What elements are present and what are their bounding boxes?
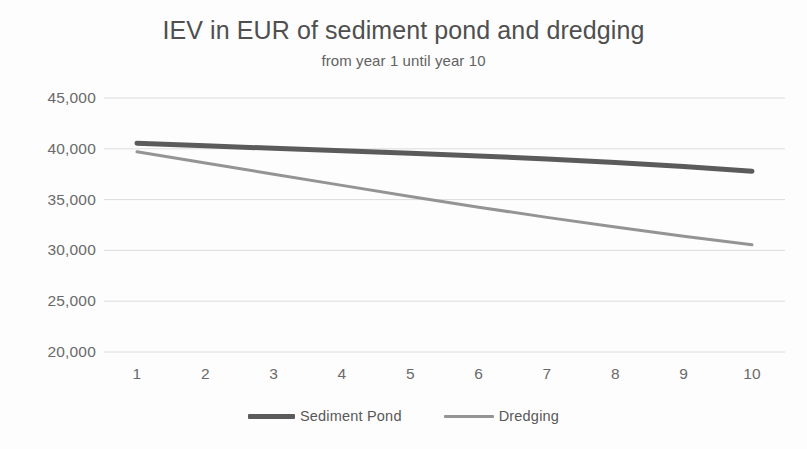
y-tick-label-25000: 25,000	[24, 292, 96, 310]
y-tick-label-30000: 30,000	[24, 241, 96, 259]
legend-item-sediment-pond[interactable]: Sediment Pond	[248, 408, 402, 424]
chart-container: IEV in EUR of sediment pond and dredging…	[0, 0, 807, 449]
legend-label: Dredging	[499, 408, 559, 424]
legend-item-dredging[interactable]: Dredging	[444, 408, 559, 424]
x-tick-label-4: 4	[338, 365, 347, 383]
x-tick-label-5: 5	[406, 365, 415, 383]
x-tick-label-1: 1	[133, 365, 142, 383]
x-tick-label-3: 3	[269, 365, 278, 383]
x-tick-label-7: 7	[543, 365, 552, 383]
plot-svg	[104, 92, 786, 360]
y-tick-label-45000: 45,000	[24, 89, 96, 107]
x-tick-label-2: 2	[201, 365, 210, 383]
x-tick-label-10: 10	[743, 365, 761, 383]
chart-subtitle: from year 1 until year 10	[0, 52, 807, 69]
y-tick-label-20000: 20,000	[24, 343, 96, 361]
x-tick-label-6: 6	[474, 365, 483, 383]
chart-title: IEV in EUR of sediment pond and dredging	[0, 16, 807, 45]
legend-line-swatch-icon	[444, 415, 494, 418]
series-lines	[137, 143, 752, 245]
chart-legend: Sediment PondDredging	[0, 408, 807, 424]
y-tick-label-40000: 40,000	[24, 140, 96, 158]
gridlines	[104, 98, 785, 352]
legend-label: Sediment Pond	[300, 408, 402, 424]
x-tick-label-9: 9	[679, 365, 688, 383]
legend-line-swatch-icon	[248, 414, 295, 419]
y-tick-label-35000: 35,000	[24, 191, 96, 209]
x-axis-tick-labels: 12345678910	[0, 365, 807, 391]
x-tick-label-8: 8	[611, 365, 620, 383]
plot-area	[104, 92, 786, 360]
